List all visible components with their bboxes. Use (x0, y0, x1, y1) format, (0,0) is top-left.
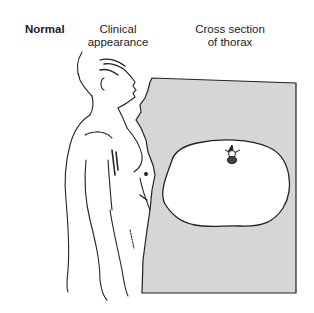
human-figure (65, 52, 150, 300)
diagram-canvas (0, 0, 314, 313)
thorax-outline (163, 140, 290, 226)
